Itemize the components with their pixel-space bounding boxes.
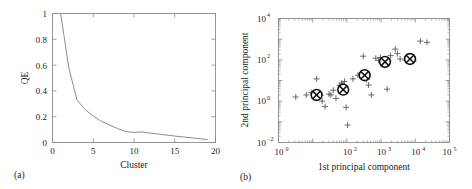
panel-b-xtick-1-base: 10 <box>343 147 353 157</box>
panel-a-ytick-3: 0.6 <box>36 61 48 71</box>
scatter-plus-marker <box>343 104 349 110</box>
scatter-plus-marker <box>293 94 299 100</box>
panel-a-x-ticks <box>53 14 216 143</box>
panel-a-svg: 0 0.2 0.4 0.6 0.8 1 0 5 10 15 20 Cluster… <box>0 0 236 189</box>
centroid-marker <box>338 84 349 95</box>
centroid-marker <box>380 56 391 67</box>
panel-a-ytick-0: 0 <box>43 138 48 148</box>
scatter-plus-markers <box>293 38 430 128</box>
scatter-plus-marker <box>350 76 356 82</box>
panel-b-ytick-3-base: 10 <box>257 14 267 24</box>
panel-b-xtick-0-exp: 0 <box>286 146 289 152</box>
panel-a-xtick-0: 0 <box>50 146 55 156</box>
panel-b-ytick-0-exp: −2 <box>267 136 273 142</box>
panel-b-xtick-2-base: 10 <box>377 147 387 157</box>
panel-a-xtick-1: 5 <box>91 146 96 156</box>
centroid-marker <box>311 90 322 101</box>
panel-b-ytick-2-exp: 2 <box>267 53 270 59</box>
centroid-marker <box>359 70 370 81</box>
panel-a-ylabel: QE <box>20 71 30 84</box>
panel-b-ytick-1-exp: 0 <box>267 95 270 101</box>
panel-a-ytick-5: 1 <box>43 9 48 19</box>
scatter-plus-marker <box>424 39 430 45</box>
scatter-plus-marker <box>368 92 374 98</box>
scatter-plus-marker <box>417 38 423 44</box>
panel-a-ytick-4: 0.8 <box>36 35 48 45</box>
qe-curve <box>61 14 208 140</box>
centroid-marker <box>405 54 416 65</box>
panel-a-xtick-3: 15 <box>170 146 180 156</box>
scatter-plus-marker <box>322 104 328 110</box>
panel-b-tag: (b) <box>240 172 251 183</box>
panel-b-xtick-3-base: 10 <box>411 147 421 157</box>
panel-b-xlabel: 1st principal component <box>318 162 410 172</box>
panel-b-ytick-2-base: 10 <box>257 55 267 65</box>
panel-b-xtick-4-exp: 5 <box>454 146 457 152</box>
panel-b-y-ticklabels: 10 −2 10 0 10 2 10 4 <box>257 12 273 147</box>
scatter-plus-marker <box>384 86 390 92</box>
panel-b-principal-components: 10 −2 10 0 10 2 10 4 10 0 10 2 10 3 10 4… <box>236 0 472 189</box>
panel-a-ytick-2: 0.4 <box>36 86 48 96</box>
scatter-plus-marker <box>360 53 366 59</box>
panel-b-ytick-0-base: 10 <box>257 138 267 148</box>
panel-b-xtick-3-exp: 4 <box>422 146 425 152</box>
panel-a-tag: (a) <box>14 170 25 181</box>
panel-b-xtick-1-exp: 2 <box>354 146 357 152</box>
panel-a-xtick-4: 20 <box>211 146 221 156</box>
panel-b-xtick-4-base: 10 <box>443 147 453 157</box>
panel-a-xtick-2: 10 <box>130 146 140 156</box>
panel-b-ytick-1-base: 10 <box>257 96 267 106</box>
panel-b-svg: 10 −2 10 0 10 2 10 4 10 0 10 2 10 3 10 4… <box>236 0 472 189</box>
panel-a-axes-frame <box>53 14 216 143</box>
scatter-plus-marker <box>345 122 351 128</box>
panel-a-quantization-error: 0 0.2 0.4 0.6 0.8 1 0 5 10 15 20 Cluster… <box>0 0 236 189</box>
panel-a-xlabel: Cluster <box>120 160 148 170</box>
figure-container: 0 0.2 0.4 0.6 0.8 1 0 5 10 15 20 Cluster… <box>0 0 472 189</box>
panel-b-xtick-2-exp: 3 <box>388 146 391 152</box>
scatter-plus-marker <box>397 56 403 62</box>
panel-b-ytick-3-exp: 4 <box>267 12 270 18</box>
panel-a-y-ticks <box>53 14 216 143</box>
panel-b-x-ticklabels: 10 0 10 2 10 3 10 4 10 5 <box>275 146 457 158</box>
panel-a-ytick-1: 0.2 <box>36 112 47 122</box>
panel-b-xtick-0-base: 10 <box>275 147 285 157</box>
scatter-plus-marker <box>314 76 320 82</box>
panel-b-ylabel: 2nd principal component <box>240 32 250 127</box>
scatter-plus-marker <box>333 95 339 101</box>
scatter-plus-marker <box>366 82 372 88</box>
